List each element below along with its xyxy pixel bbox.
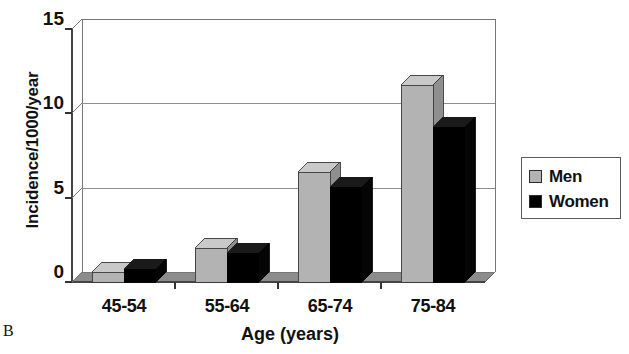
legend-swatch-icon-men	[529, 170, 542, 183]
chart-figure: Incidence/1000/year 15 10 5 0	[0, 0, 629, 354]
bar-women-55-64	[227, 243, 269, 282]
legend-item-men: Men	[529, 164, 620, 189]
legend-swatch-icon-women	[529, 195, 542, 208]
x-axis-title: Age (years)	[100, 324, 480, 345]
panel-letter: B	[3, 322, 14, 340]
legend-label-women: Women	[549, 192, 609, 212]
bar-women-45-54	[124, 259, 166, 282]
x-tick-label-75-84: 75-84	[385, 296, 481, 317]
x-tick-label-45-54: 45-54	[76, 296, 172, 317]
chart-legend: Men Women	[521, 157, 621, 219]
bar-women-75-84	[433, 117, 475, 282]
x-tick-label-55-64: 55-64	[179, 296, 275, 317]
y-axis-ticks	[65, 29, 72, 282]
x-tick-label-65-74: 65-74	[282, 296, 378, 317]
bar-women-65-74	[330, 177, 372, 282]
legend-item-women: Women	[529, 189, 620, 214]
x-axis-ticks	[175, 282, 381, 289]
legend-label-men: Men	[549, 167, 582, 187]
